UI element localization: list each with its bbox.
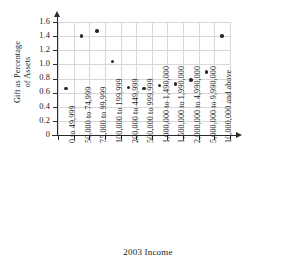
y-tick-mark — [53, 64, 57, 65]
y-axis-title: Gift as Percentage of Assets — [6, 12, 40, 132]
y-tick-mark — [53, 107, 57, 108]
data-point — [174, 82, 177, 85]
x-tick-label: 10,000,000 and above — [225, 70, 233, 143]
y-tick-label: 1.2 — [6, 46, 50, 54]
y-tick-mark — [53, 121, 57, 122]
x-tick-label: 0 to 49,999 — [69, 105, 77, 143]
gridline-horizontal — [58, 22, 230, 23]
data-point — [220, 34, 223, 37]
x-tick-label: 5,000,000 to 9,990,000 — [210, 66, 218, 143]
x-tick-label: 1,500,000 to 1,990,000 — [178, 66, 186, 143]
gridline-horizontal — [58, 64, 230, 65]
y-tick-label: 0.2 — [6, 117, 50, 125]
y-tick-mark — [53, 135, 57, 136]
y-tick-mark — [53, 36, 57, 37]
y-axis-arrow-icon — [54, 11, 60, 17]
gridline-horizontal — [58, 50, 230, 51]
x-tick-label: 1,000,000 to 1,490,000 — [163, 66, 171, 143]
x-tick-label: 500,000 to 999,999 — [147, 78, 155, 143]
data-point — [95, 29, 98, 32]
y-axis-line — [57, 16, 58, 136]
y-tick-label: 0.8 — [6, 74, 50, 82]
x-tick-label: 2,000,000 to 4,990,000 — [194, 66, 202, 143]
data-point — [80, 34, 83, 37]
y-tick-label: 1.0 — [6, 60, 50, 68]
y-tick-mark — [53, 79, 57, 80]
scatter-chart-figure: Gift as Percentage of Assets 1.61.41.21.… — [0, 0, 296, 270]
data-point — [64, 87, 67, 90]
gridline-horizontal — [58, 36, 230, 37]
y-tick-label: 0.6 — [6, 88, 50, 96]
y-tick-label: 1.4 — [6, 32, 50, 40]
x-tick-mark — [58, 136, 59, 140]
y-tick-label: 0 — [6, 131, 50, 139]
data-point — [142, 87, 145, 90]
y-tick-mark — [53, 93, 57, 94]
x-tick-label: 200,000 to 449,999 — [132, 78, 140, 143]
y-tick-label: 1.6 — [6, 18, 50, 26]
y-tick-mark — [53, 50, 57, 51]
y-tick-mark — [53, 22, 57, 23]
y-tick-label: 0.4 — [6, 103, 50, 111]
data-point — [205, 70, 208, 73]
gridline-horizontal — [58, 79, 230, 80]
x-axis-arrow-icon — [236, 132, 242, 138]
x-tick-label: 75,000 to 99,999 — [100, 87, 108, 143]
x-tick-label: 100,000 to 199,999 — [116, 78, 124, 143]
x-tick-label: 50,000 to 74,999 — [85, 87, 93, 143]
x-axis-title: 2003 Income — [0, 247, 296, 257]
data-point — [189, 78, 192, 81]
